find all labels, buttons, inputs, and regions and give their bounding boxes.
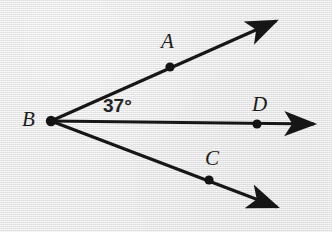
point-label-C: C [205,148,219,169]
vertex-B-dot [46,116,56,126]
point-label-A: A [161,31,174,52]
point-C-dot [204,175,213,184]
ray-BD-line [51,121,314,124]
ray-BC-line [51,121,277,207]
angle-measure-label: 37° [103,96,132,115]
point-label-D: D [252,94,267,115]
point-label-B: B [22,109,35,130]
point-D-dot [252,119,261,128]
point-A-dot [165,62,174,71]
geometry-figure: B A D C 37° [0,0,332,232]
